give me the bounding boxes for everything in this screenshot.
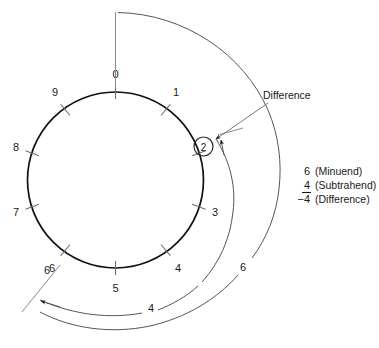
minuend-arc-upper xyxy=(118,13,280,190)
subtrahend-arc-mid xyxy=(158,286,198,310)
equation-minuend-value: 6 xyxy=(304,165,310,177)
difference-leader-line xyxy=(216,103,268,139)
minuend-arc-label: 6 xyxy=(240,261,246,273)
minuend-arc-right xyxy=(252,189,279,258)
equation-minuend-word: (Minuend) xyxy=(315,165,362,177)
dial-label-4: 4 xyxy=(175,262,181,274)
sweep-start-label-6: 6 xyxy=(44,264,50,276)
dial-label-7: 7 xyxy=(13,206,19,218)
subtrahend-arc-label: 4 xyxy=(148,302,154,314)
dial-circle xyxy=(28,92,204,268)
minuend-arc-lower xyxy=(40,275,238,330)
result-marker-value: 2 xyxy=(201,142,207,153)
dial-label-5: 5 xyxy=(112,282,118,294)
dial-label-3: 3 xyxy=(212,206,218,218)
dial-label-8: 8 xyxy=(13,141,19,153)
equation-subtrahend-word: (Subtrahend) xyxy=(315,179,376,191)
subtraction-dial-figure: 0 1 3 4 5 6 7 8 9 6 4 6 xyxy=(0,0,379,348)
difference-callout-label: Difference xyxy=(263,89,311,101)
equation-block: 6 (Minuend) 4 (Subtrahend) −4 (Differenc… xyxy=(297,165,376,205)
dial-label-1: 1 xyxy=(173,86,179,98)
dial-ticks xyxy=(25,85,205,275)
equation-difference-value: −4 xyxy=(297,193,310,205)
equation-subtrahend-value: 4 xyxy=(304,179,310,191)
equation-difference-word: (Difference) xyxy=(315,193,370,205)
dial-label-9: 9 xyxy=(52,86,58,98)
diagram-canvas: 0 1 3 4 5 6 7 8 9 6 4 6 xyxy=(0,0,379,348)
dial-digit-labels: 0 1 3 4 5 6 7 8 9 xyxy=(13,68,218,294)
subtrahend-arc-lower xyxy=(40,300,142,316)
sweep-arrowhead xyxy=(41,301,60,307)
